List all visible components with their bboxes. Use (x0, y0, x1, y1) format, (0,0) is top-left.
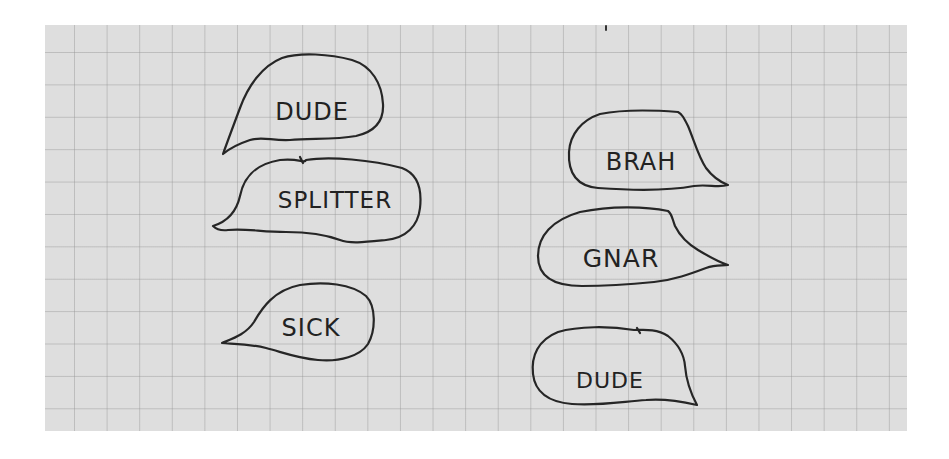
stray-pen-mark (605, 25, 607, 31)
pen-tick-splitter (300, 157, 303, 163)
bubble-label-dude-right: DUDE (576, 370, 644, 392)
bubble-label-gnar: GNAR (583, 246, 660, 271)
speech-bubble-dude-right-outline (533, 327, 697, 405)
pen-tick-dude-right (637, 328, 640, 333)
bubble-label-sick: SICK (282, 316, 341, 340)
bubble-label-splitter: SPLITTER (278, 189, 392, 212)
speech-bubble-sketch (0, 0, 949, 459)
bubble-label-brah: BRAH (606, 150, 677, 174)
bubble-label-dude-left: DUDE (275, 100, 349, 124)
